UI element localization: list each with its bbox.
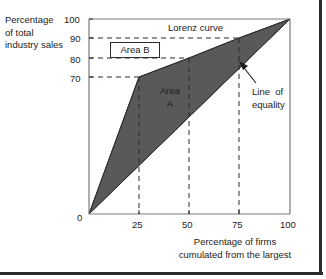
area-b-label-box: Area B xyxy=(110,42,160,58)
y-axis-title-line-1: Percentage xyxy=(5,14,54,25)
area-a-label-line-2: A xyxy=(167,98,173,109)
line-of-equality-label-line-2: equality xyxy=(252,99,285,110)
figure-frame-bottom xyxy=(0,272,323,275)
area-a-label-line-1: Area xyxy=(160,85,180,96)
y-axis-title-line-2: of total xyxy=(5,27,34,38)
x-tick-label-100: 100 xyxy=(280,219,296,230)
x-axis-title-line-2: cumulated from the largest xyxy=(179,249,291,260)
lorenz-curve-label: Lorenz curve xyxy=(168,22,223,35)
y-axis-title-line-3: industry sales xyxy=(5,39,63,50)
y-axis-title: Percentageof totalindustry sales xyxy=(5,14,63,52)
figure-frame-right xyxy=(319,0,322,274)
line-of-equality-label: Line ofequality xyxy=(252,86,285,111)
x-axis-title-line-1: Percentage of firms xyxy=(194,236,276,247)
x-tick-label-50: 50 xyxy=(182,219,193,230)
y-tick-label-80: 80 xyxy=(70,54,81,65)
y-tick-label-70: 70 xyxy=(70,73,81,84)
x-axis-title: Percentage of firmscumulated from the la… xyxy=(150,236,320,261)
lorenz-curve-figure: Percentageof totalindustry sales 100 90 … xyxy=(0,0,326,279)
x-tick-label-0: 0 xyxy=(77,212,82,223)
x-tick-label-75: 75 xyxy=(232,219,243,230)
y-tick-label-90: 90 xyxy=(70,33,81,44)
line-of-equality-label-line-1: Line of xyxy=(252,86,283,97)
y-tick-label-100: 100 xyxy=(64,14,80,25)
x-tick-label-25: 25 xyxy=(132,219,143,230)
area-a-label: AreaA xyxy=(157,85,183,110)
